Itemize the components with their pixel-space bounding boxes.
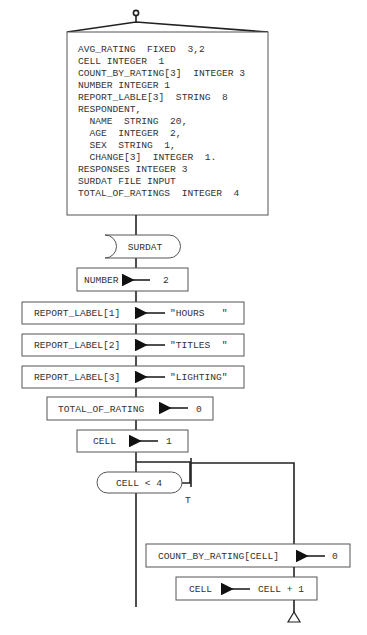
assign-cell-box: CELL 1 xyxy=(77,430,188,452)
assign-value: "HOURS " xyxy=(170,308,228,319)
assign-value: "LIGHTING" xyxy=(170,372,228,383)
declaration-line: COUNT_BY_RATING[3] INTEGER 3 xyxy=(78,68,245,79)
assign-target: REPORT_LABEL[2] xyxy=(34,340,120,351)
assign-target: REPORT_LABEL[1] xyxy=(34,308,120,319)
entry-connector-icon xyxy=(133,10,138,15)
declaration-line: AGE INTEGER 2, xyxy=(78,128,182,139)
file-open-terminal: SURDAT xyxy=(105,235,181,258)
declaration-line: AVG_RATING FIXED 3,2 xyxy=(78,44,205,55)
loop-return-triangle-icon xyxy=(288,612,300,622)
declaration-line: CHANGE[3] INTEGER 1. xyxy=(78,152,216,163)
assign-report-label-1-box: REPORT_LABEL[1] "HOURS " xyxy=(22,302,244,324)
assign-count-by-rating-box: COUNT_BY_RATING[CELL] 0 xyxy=(146,544,350,567)
assign-number-box: NUMBER 2 xyxy=(77,268,188,291)
assign-target: COUNT_BY_RATING[CELL] xyxy=(158,551,279,562)
declaration-line: REPORT_LABLE[3] STRING 8 xyxy=(78,92,228,103)
assign-target: TOTAL_OF_RATING xyxy=(58,404,145,415)
declaration-line: NAME STRING 20, xyxy=(78,116,187,127)
declaration-line: SEX STRING 1, xyxy=(78,140,176,151)
assign-value: 2 xyxy=(163,275,169,286)
flowchart: AVG_RATING FIXED 3,2 CELL INTEGER 1 COUN… xyxy=(0,0,367,635)
assign-target: NUMBER xyxy=(84,275,119,286)
declaration-line: CELL INTEGER 1 xyxy=(78,56,165,67)
declaration-line: RESPONSES INTEGER 3 xyxy=(78,164,188,175)
assign-value: "TITLES " xyxy=(170,340,228,351)
declaration-line: SURDAT FILE INPUT xyxy=(78,176,176,187)
file-open-label: SURDAT xyxy=(128,242,163,253)
assign-value: 0 xyxy=(332,551,338,562)
assign-value: CELL + 1 xyxy=(258,584,304,595)
declaration-block: AVG_RATING FIXED 3,2 CELL INTEGER 1 COUN… xyxy=(67,22,268,215)
assign-target: REPORT_LABEL[3] xyxy=(34,372,120,383)
assign-target: CELL xyxy=(93,436,116,447)
declaration-line: TOTAL_OF_RATINGS INTEGER 4 xyxy=(78,188,239,199)
while-loop: CELL < 4 T COUNT_BY_RATING[CELL] 0 CELL … xyxy=(97,458,350,622)
assign-target: CELL xyxy=(189,584,212,595)
assign-report-label-3-box: REPORT_LABEL[3] "LIGHTING" xyxy=(22,366,244,388)
assign-total-of-rating-box: TOTAL_OF_RATING 0 xyxy=(47,397,213,420)
loop-true-label: T xyxy=(185,495,191,506)
assign-cell-increment-box: CELL CELL + 1 xyxy=(176,577,317,600)
declaration-line: NUMBER INTEGER 1 xyxy=(78,80,170,91)
declaration-line: RESPONDENT, xyxy=(78,104,141,115)
assign-report-label-2-box: REPORT_LABEL[2] "TITLES " xyxy=(22,334,244,356)
assign-value: 1 xyxy=(166,436,172,447)
assign-value: 0 xyxy=(196,404,202,415)
loop-body-line xyxy=(191,463,294,544)
loop-condition-label: CELL < 4 xyxy=(116,478,162,489)
